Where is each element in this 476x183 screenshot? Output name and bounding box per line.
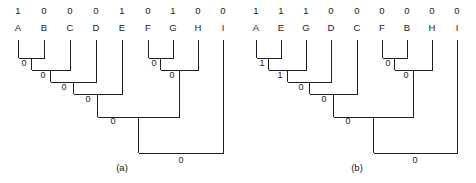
- leaf-label-panel-a-A: A: [15, 22, 22, 33]
- leaf-bit-panel-a-I: 0: [220, 5, 225, 16]
- leaf-label-panel-a-F: F: [145, 22, 151, 33]
- merge-label-a-m2: 0: [40, 70, 45, 80]
- leaf-bit-panel-a-B: 0: [41, 5, 46, 16]
- leaf-bit-panel-b-E: 1: [278, 5, 283, 16]
- leaf-bit-panel-b-H: 0: [429, 5, 434, 16]
- leaf-label-panel-b-G: G: [302, 22, 309, 33]
- leaf-bit-panel-b-F: 0: [379, 5, 384, 16]
- dendrogram-canvas: 1A0B0C0D1E0F1G0H0I00000000(a)1A1E1G0D0C0…: [0, 0, 476, 183]
- leaf-bit-panel-a-G: 1: [170, 5, 175, 16]
- merge-label-b-m2: 1: [277, 70, 282, 80]
- caption-panel-a: (a): [116, 162, 128, 173]
- leaf-label-panel-a-E: E: [119, 22, 125, 33]
- leaf-label-panel-b-I: I: [456, 22, 459, 33]
- leaf-label-panel-b-E: E: [278, 22, 284, 33]
- leaf-label-panel-a-C: C: [67, 22, 74, 33]
- merge-label-a-m5: 0: [151, 58, 156, 68]
- leaf-bit-panel-a-H: 0: [195, 5, 200, 16]
- leaf-bit-panel-b-A: 1: [253, 5, 258, 16]
- leaf-label-panel-a-H: H: [195, 22, 202, 33]
- merge-label-b-m6: 0: [403, 70, 408, 80]
- merge-label-b-m8: 0: [412, 155, 417, 165]
- hierarchical-clustering-figure: 1A0B0C0D1E0F1G0H0I00000000(a)1A1E1G0D0C0…: [0, 0, 476, 183]
- leaf-label-panel-b-F: F: [379, 22, 385, 33]
- leaf-bit-panel-b-G: 1: [303, 5, 308, 16]
- merge-label-a-m8: 0: [178, 155, 183, 165]
- leaf-label-panel-b-C: C: [354, 22, 361, 33]
- leaf-label-panel-b-D: D: [328, 22, 335, 33]
- panel-b: 1A1E1G0D0C0F0B0H0I11000000(b): [253, 5, 460, 173]
- leaf-bit-panel-a-F: 0: [145, 5, 150, 16]
- merge-label-a-m4: 0: [85, 94, 90, 104]
- merge-label-b-m5: 0: [385, 58, 390, 68]
- leaf-label-panel-a-G: G: [169, 22, 176, 33]
- merge-label-a-m3: 0: [61, 82, 66, 92]
- leaf-bit-panel-a-C: 0: [67, 5, 72, 16]
- merge-label-b-m1: 1: [259, 58, 264, 68]
- leaf-label-panel-a-D: D: [93, 22, 100, 33]
- leaf-label-panel-b-H: H: [429, 22, 436, 33]
- leaf-label-panel-a-B: B: [41, 22, 47, 33]
- merge-label-b-m4: 0: [321, 94, 326, 104]
- merge-label-a-m1: 0: [21, 58, 26, 68]
- leaf-bit-panel-a-E: 1: [119, 5, 124, 16]
- merge-label-b-m3: 0: [298, 82, 303, 92]
- leaf-bit-panel-a-D: 0: [93, 5, 98, 16]
- leaf-label-panel-a-I: I: [222, 22, 225, 33]
- leaf-bit-panel-b-C: 0: [354, 5, 359, 16]
- merge-label-b-m7: 0: [345, 116, 350, 126]
- caption-panel-b: (b): [351, 162, 363, 173]
- leaf-label-panel-b-A: A: [253, 22, 260, 33]
- panel-a: 1A0B0C0D1E0F1G0H0I00000000(a): [15, 5, 226, 173]
- merge-label-a-m7: 0: [110, 116, 115, 126]
- leaf-bit-panel-b-D: 0: [328, 5, 333, 16]
- merge-label-a-m6: 0: [169, 70, 174, 80]
- leaf-bit-panel-b-B: 0: [404, 5, 409, 16]
- leaf-bit-panel-b-I: 0: [454, 5, 459, 16]
- leaf-bit-panel-a-A: 1: [15, 5, 20, 16]
- leaf-label-panel-b-B: B: [404, 22, 410, 33]
